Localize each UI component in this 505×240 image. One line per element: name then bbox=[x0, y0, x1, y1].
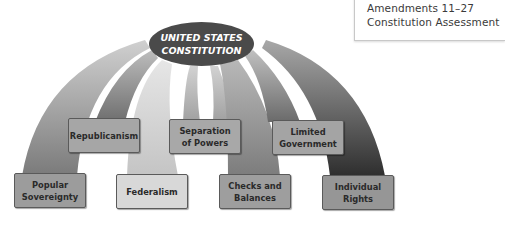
label-checks-line1: Checks and bbox=[228, 180, 281, 192]
label-separation-line2: of Powers bbox=[182, 137, 228, 149]
arc-separation-of-powers-left bbox=[183, 66, 200, 122]
box-separation-of-powers: Separation of Powers bbox=[169, 119, 241, 154]
box-federalism: Federalism bbox=[116, 174, 188, 209]
constitution-oval: UNITED STATES CONSTITUTION bbox=[149, 22, 254, 66]
label-federalism: Federalism bbox=[126, 186, 178, 198]
box-limited-government: Limited Government bbox=[272, 120, 344, 155]
label-separation-line1: Separation bbox=[179, 125, 230, 137]
label-limited-line1: Limited bbox=[290, 126, 325, 138]
label-rights-line1: Individual bbox=[335, 181, 381, 193]
label-rights-line2: Rights bbox=[343, 193, 373, 205]
box-individual-rights: Individual Rights bbox=[322, 175, 394, 210]
label-popular-line1: Popular bbox=[32, 179, 68, 191]
label-limited-line2: Government bbox=[279, 138, 337, 150]
label-popular-line2: Sovereignty bbox=[22, 191, 79, 203]
box-checks-and-balances: Checks and Balances bbox=[219, 174, 291, 209]
label-republicanism: Republicanism bbox=[70, 130, 138, 142]
box-popular-sovereignty: Popular Sovereignty bbox=[14, 173, 86, 208]
constitution-title-line2: CONSTITUTION bbox=[161, 44, 241, 57]
box-republicanism: Republicanism bbox=[68, 118, 140, 153]
constitution-title-line1: UNITED STATES bbox=[160, 31, 242, 44]
label-checks-line2: Balances bbox=[234, 192, 276, 204]
